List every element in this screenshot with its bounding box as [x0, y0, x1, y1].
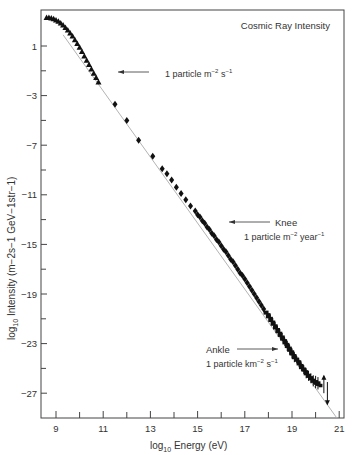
x-tick-label: 15 — [192, 423, 203, 434]
cosmic-ray-chart: 9111315171921 1−3−7−11−15−19−23−27 Cosmi… — [0, 0, 353, 455]
diamond-marker — [113, 101, 118, 108]
x-tick-label: 13 — [145, 423, 156, 434]
arrow-up-marker — [321, 375, 326, 380]
y-tick-label: 1 — [32, 41, 37, 52]
diamond-marker — [150, 153, 155, 160]
diamond-marker — [124, 117, 129, 124]
x-tick-label: 11 — [98, 423, 108, 434]
x-axis-label: log10 Energy (eV) — [150, 440, 227, 453]
diamond-marker — [179, 190, 184, 197]
ankle-label: Ankle — [206, 344, 230, 355]
diamond-marker — [188, 202, 193, 209]
annotation-arrows — [118, 70, 278, 351]
diamond-marker — [183, 196, 188, 203]
data-marker — [318, 384, 322, 388]
x-tick-label: 9 — [53, 423, 58, 434]
diamond-marker — [169, 176, 174, 183]
x-tick-label: 19 — [287, 423, 298, 434]
chart-title: Cosmic Ray Intensity — [241, 20, 330, 31]
y-axis-label: log10 Intensity (m−2s−1 GeV−1str−1) — [6, 177, 19, 340]
knee-annotation: 1 particle m−2 year−1 — [244, 231, 325, 242]
arrow-ankle-head — [272, 347, 278, 351]
x-axis: 9111315171921 — [53, 411, 344, 434]
y-tick-label: −15 — [21, 239, 37, 250]
annotation-1-particle-per-m2-s: 1 particle m−2 s−1 — [165, 68, 233, 79]
y-tick-label: −11 — [22, 189, 37, 200]
y-tick-label: −3 — [26, 90, 37, 101]
arrow-1-particle-head — [118, 70, 124, 74]
y-tick-label: −19 — [21, 289, 37, 300]
y-axis: 1−3−7−11−15−19−23−27 — [21, 41, 47, 399]
knee-label: Knee — [275, 217, 297, 228]
diamond-marker — [174, 184, 179, 191]
y-tick-label: −7 — [26, 140, 37, 151]
y-tick-label: −27 — [21, 388, 37, 399]
arrow-knee-head — [229, 220, 235, 224]
diamond-marker — [164, 170, 169, 177]
x-tick-label: 21 — [334, 423, 345, 434]
y-tick-label: −23 — [21, 338, 37, 349]
ankle-annotation: 1 particle km−2 s−1 — [206, 358, 278, 369]
x-tick-label: 17 — [240, 423, 251, 434]
